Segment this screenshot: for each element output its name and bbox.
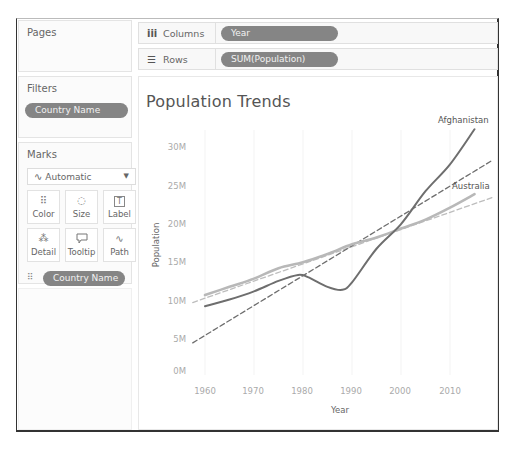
australia-trend-line[interactable] xyxy=(193,197,493,302)
australia-line[interactable] xyxy=(205,194,475,295)
afghanistan-line-label: Afghanistan xyxy=(438,115,489,125)
gridlines xyxy=(205,130,450,375)
series-layer xyxy=(193,129,493,343)
australia-line-label: Australia xyxy=(452,181,490,191)
afghanistan-trend-line[interactable] xyxy=(193,160,493,343)
line-chart-plot[interactable] xyxy=(0,0,517,449)
